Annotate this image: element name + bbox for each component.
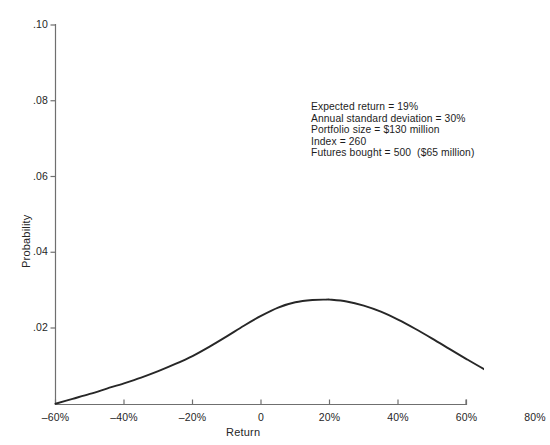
y-axis-tick-label-0: .02 bbox=[18, 321, 48, 333]
y-axis-title: Probability bbox=[20, 214, 32, 268]
x-axis-tick-label-0: –60% bbox=[26, 411, 86, 423]
annotation-line-4: Futures bought = 500 ($65 million) bbox=[311, 147, 474, 159]
x-axis-tick-label-6: 60% bbox=[437, 411, 497, 423]
y-axis-tick-label-4: .10 bbox=[18, 18, 48, 30]
x-axis-tick-label-3: 0 bbox=[231, 411, 291, 423]
parameter-annotation-block: Expected return = 19%Annual standard dev… bbox=[311, 101, 474, 159]
axes-group bbox=[55, 24, 466, 405]
x-axis-title: Return bbox=[226, 426, 260, 438]
x-axis-tick-label-5: 40% bbox=[368, 411, 428, 423]
y-axis-tick-label-3: .08 bbox=[18, 94, 48, 106]
distribution-curve bbox=[56, 299, 485, 403]
x-axis-tick-label-2: –20% bbox=[163, 411, 223, 423]
x-axis-tick-label-4: 20% bbox=[300, 411, 360, 423]
x-axis-tick-label-7: 80% bbox=[505, 411, 550, 423]
clipped-caption bbox=[0, 437, 484, 445]
annotation-line-1: Annual standard deviation = 30% bbox=[311, 113, 474, 125]
annotation-line-2: Portfolio size = $130 million bbox=[311, 124, 474, 136]
annotation-line-0: Expected return = 19% bbox=[311, 101, 474, 113]
y-axis-tick-label-2: .06 bbox=[18, 170, 48, 182]
x-axis-tick-label-1: –40% bbox=[94, 411, 154, 423]
annotation-line-3: Index = 260 bbox=[311, 136, 474, 148]
